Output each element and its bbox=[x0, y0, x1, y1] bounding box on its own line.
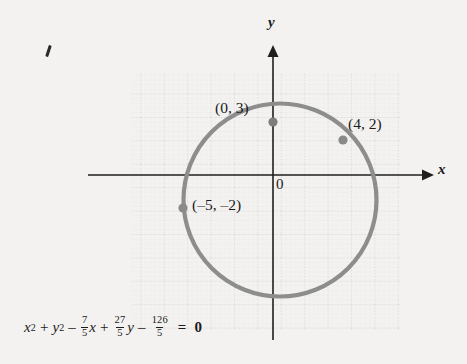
origin-label: 0 bbox=[276, 176, 284, 193]
eq-fraction-7-5: 7 5 bbox=[81, 315, 88, 338]
eq-term-x-exp: 2 bbox=[31, 322, 36, 333]
eq-frac1-denominator: 5 bbox=[81, 327, 88, 339]
point-label-minus5-minus2: (–5, –2) bbox=[192, 196, 241, 214]
eq-op-1: + bbox=[40, 319, 49, 336]
x-axis-label: x bbox=[438, 161, 446, 178]
eq-frac3-denominator: 5 bbox=[156, 327, 163, 339]
eq-equals: = bbox=[178, 319, 187, 336]
eq-term-x: x bbox=[24, 319, 31, 336]
eq-frac2-variable: y bbox=[127, 319, 134, 336]
eq-frac2-numerator: 27 bbox=[114, 315, 127, 326]
eq-fraction-27-5: 27 5 bbox=[114, 315, 127, 338]
eq-rhs: 0 bbox=[194, 319, 202, 336]
y-axis-arrow bbox=[268, 45, 279, 57]
eq-frac3-numerator: 126 bbox=[151, 315, 169, 326]
y-axis-label: y bbox=[268, 14, 275, 31]
data-point-minus5-minus2 bbox=[178, 203, 187, 212]
eq-frac1-numerator: 7 bbox=[81, 315, 88, 326]
eq-op-4: – bbox=[138, 319, 146, 336]
eq-term-y-exp: 2 bbox=[59, 322, 64, 333]
eq-term-y: y bbox=[52, 319, 59, 336]
eq-frac2-denominator: 5 bbox=[116, 327, 123, 339]
data-point-0-3 bbox=[268, 117, 277, 126]
eq-frac1-variable: x bbox=[89, 319, 96, 336]
circle-equation: x2 + y2 – 7 5 x + 27 5 y – 126 5 = 0 bbox=[24, 316, 202, 339]
data-point-4-2 bbox=[338, 135, 347, 144]
graph-canvas bbox=[0, 0, 467, 364]
point-label-4-2: (4, 2) bbox=[348, 115, 382, 133]
point-label-0-3: (0, 3) bbox=[215, 99, 249, 117]
grid-region bbox=[131, 73, 400, 330]
eq-op-3: + bbox=[100, 319, 109, 336]
x-axis-arrow bbox=[422, 170, 434, 181]
eq-op-2: – bbox=[68, 319, 76, 336]
circle-graph-figure: y x 0 (0, 3) (4, 2) (–5, –2) x2 + y2 – 7… bbox=[0, 0, 467, 364]
eq-fraction-126-5: 126 5 bbox=[151, 315, 169, 338]
